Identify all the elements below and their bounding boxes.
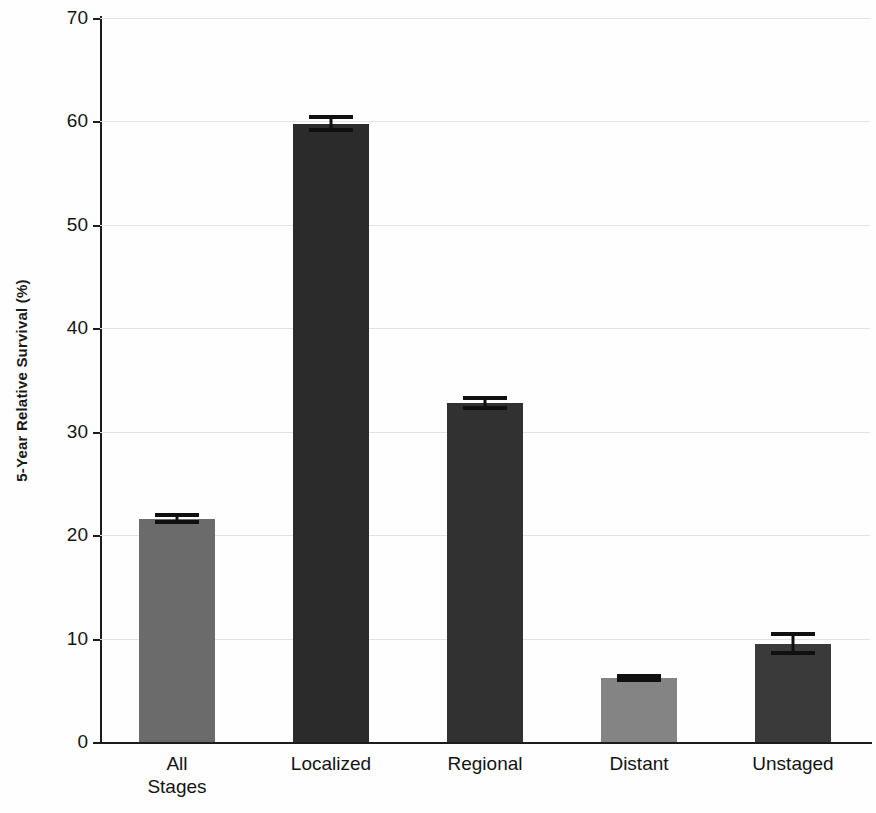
plot-area: 010203040506070 [100, 18, 870, 742]
bar [755, 644, 831, 742]
error-bar-cap-upper [155, 513, 199, 517]
x-tick-label: Regional [408, 752, 562, 775]
y-tick-label: 40 [67, 317, 88, 339]
error-bar-cap-lower [771, 651, 815, 655]
x-tick-label: All Stages [100, 752, 254, 798]
error-bar-cap-lower [309, 128, 353, 132]
y-axis-title: 5-Year Relative Survival (%) [6, 0, 36, 760]
bar [293, 124, 369, 743]
error-bar-cap-lower [617, 678, 661, 682]
y-tick-label: 50 [67, 214, 88, 236]
x-tick-label: Unstaged [716, 752, 870, 775]
x-tick-label: Localized [254, 752, 408, 775]
x-tick-label: Distant [562, 752, 716, 775]
bar [447, 403, 523, 742]
y-tick-label: 30 [67, 421, 88, 443]
bar [139, 519, 215, 742]
error-bar-cap-lower [463, 406, 507, 410]
gridline [100, 328, 870, 329]
error-bar-cap-lower [155, 520, 199, 524]
y-tick-label: 70 [67, 7, 88, 29]
error-bar-cap-upper [771, 632, 815, 636]
y-tick-label: 20 [67, 524, 88, 546]
chart-figure: 5-Year Relative Survival (%) 01020304050… [0, 0, 876, 813]
y-tick-mark [93, 18, 100, 20]
y-tick-label: 60 [67, 110, 88, 132]
y-axis-title-text: 5-Year Relative Survival (%) [13, 279, 30, 481]
y-tick-mark [93, 742, 100, 744]
x-axis-line [100, 742, 872, 744]
y-tick-label: 0 [77, 731, 88, 753]
error-bar-cap-upper [463, 396, 507, 400]
y-tick-mark [93, 328, 100, 330]
gridline [100, 225, 870, 226]
y-tick-mark [93, 225, 100, 227]
y-tick-mark [93, 432, 100, 434]
gridline [100, 18, 870, 19]
y-tick-mark [93, 639, 100, 641]
y-tick-mark [93, 535, 100, 537]
gridline [100, 121, 870, 122]
y-tick-label: 10 [67, 628, 88, 650]
error-bar-cap-upper [309, 115, 353, 119]
bar [601, 678, 677, 742]
y-tick-mark [93, 121, 100, 123]
